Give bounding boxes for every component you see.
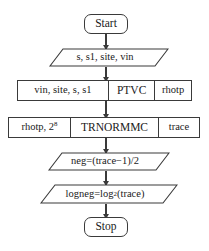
flowchart-diagram: Start s, s1, site, vin vin, site, s, s1 … xyxy=(0,0,209,251)
node-input-params: s, s1, site, vin xyxy=(41,48,169,67)
trnormmc-outputs-label: trace xyxy=(169,122,189,133)
trnormmc-outputs-cell: trace xyxy=(158,118,199,137)
node-neg-calc-label: neg=(trace−1)/2 xyxy=(40,152,170,171)
node-ptvc-row: vin, site, s, s1 PTVC rhotp xyxy=(17,80,192,101)
ptvc-inputs-label: vin, site, s, s1 xyxy=(34,85,91,96)
ptvc-outputs-cell: rhotp xyxy=(154,81,191,100)
connector-neg-to-logneg xyxy=(105,171,106,185)
ptvc-process-cell: PTVC xyxy=(108,81,154,100)
node-logneg-calc: logneg=log2(trace) xyxy=(32,184,178,204)
connector-ptvc-to-trnormmc xyxy=(105,101,106,118)
node-stop: Stop xyxy=(84,217,128,237)
node-start-label: Start xyxy=(95,18,117,30)
trnormmc-process-label: TRNORMMC xyxy=(81,122,148,134)
node-neg-calc: neg=(trace−1)/2 xyxy=(40,152,170,171)
trnormmc-inputs-label: rhotp, 28 xyxy=(21,122,57,133)
node-stop-label: Stop xyxy=(95,221,116,233)
connector-start-to-input xyxy=(105,34,106,49)
logneg-suffix: (trace) xyxy=(117,189,144,200)
node-input-params-label: s, s1, site, vin xyxy=(41,48,169,67)
trnormmc-inputs-exponent: 8 xyxy=(54,120,57,127)
node-trnormmc-row: rhotp, 28 TRNORMMC trace xyxy=(8,117,200,138)
trnormmc-process-cell: TRNORMMC xyxy=(70,118,158,137)
ptvc-inputs-cell: vin, site, s, s1 xyxy=(18,81,108,100)
connector-input-to-ptvc xyxy=(105,67,106,81)
ptvc-process-label: PTVC xyxy=(117,85,146,97)
logneg-prefix: logneg=log xyxy=(66,189,114,200)
trnormmc-inputs-cell: rhotp, 28 xyxy=(9,118,70,137)
node-start: Start xyxy=(84,14,128,34)
connector-trnormmc-to-neg xyxy=(105,138,106,153)
connector-logneg-to-stop xyxy=(105,204,106,218)
ptvc-outputs-label: rhotp xyxy=(162,85,184,96)
node-logneg-calc-label: logneg=log2(trace) xyxy=(32,184,178,204)
trnormmc-inputs-base: rhotp, 2 xyxy=(21,121,54,132)
